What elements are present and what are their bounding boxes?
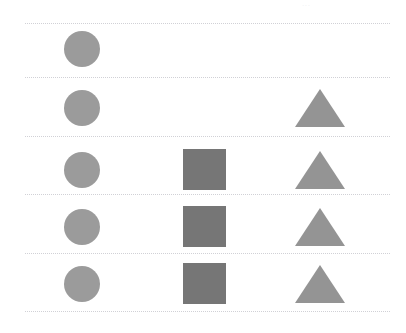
figure-canvas: ··· xyxy=(0,0,406,333)
separator-line-4 xyxy=(25,194,390,195)
separator-line-1 xyxy=(25,23,390,24)
circle-row4 xyxy=(64,209,100,245)
triangle-row5 xyxy=(295,265,345,303)
separator-line-2 xyxy=(25,77,390,78)
circle-row1 xyxy=(64,31,100,67)
triangle-row3 xyxy=(295,151,345,189)
square-row3 xyxy=(183,149,226,190)
separator-line-3 xyxy=(25,136,390,137)
separator-line-5 xyxy=(25,253,390,254)
square-row4 xyxy=(183,206,226,247)
square-row5 xyxy=(183,263,226,304)
triangle-row4 xyxy=(295,208,345,246)
circle-row2 xyxy=(64,90,100,126)
circle-row3 xyxy=(64,152,100,188)
separator-line-6 xyxy=(25,311,390,312)
faint-top-mark: ··· xyxy=(302,2,311,10)
triangle-row2 xyxy=(295,89,345,127)
circle-row5 xyxy=(64,266,100,302)
